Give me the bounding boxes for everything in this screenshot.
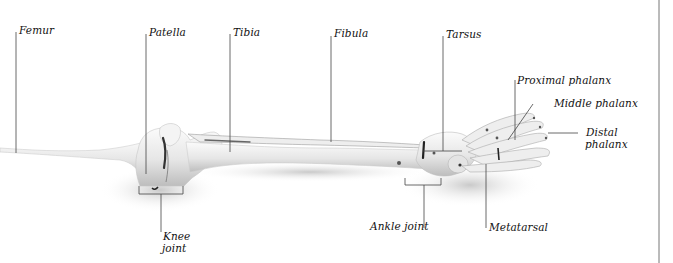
label-fibula: Fibula xyxy=(334,27,368,39)
label-distal-phalanx-1: Distal xyxy=(586,126,618,138)
heel-spot xyxy=(458,163,461,166)
tarsus-spot xyxy=(433,152,436,155)
label-metatarsal: Metatarsal xyxy=(489,221,548,233)
skeleton-illustration xyxy=(0,0,673,263)
label-ankle-joint: Ankle joint xyxy=(370,220,429,232)
metatarsal-crease xyxy=(498,148,499,160)
label-tarsus: Tarsus xyxy=(446,28,482,40)
label-proximal-phalanx: Proximal phalanx xyxy=(517,74,611,86)
label-femur: Femur xyxy=(19,24,54,36)
label-knee-joint-1: Knee xyxy=(163,230,190,242)
label-patella: Patella xyxy=(149,26,186,38)
leg-skeleton-diagram: Femur Patella Tibia Fibula Tarsus Proxim… xyxy=(0,0,673,263)
ankle-crease xyxy=(423,142,424,158)
label-tibia: Tibia xyxy=(233,26,260,38)
femur-bone xyxy=(0,140,150,176)
label-distal-phalanx-2: phalanx xyxy=(585,138,628,150)
label-knee-joint-2: joint xyxy=(162,242,186,254)
heel-bone xyxy=(448,155,468,173)
ankle-bump xyxy=(397,161,401,165)
label-middle-phalanx: Middle phalanx xyxy=(554,97,638,109)
